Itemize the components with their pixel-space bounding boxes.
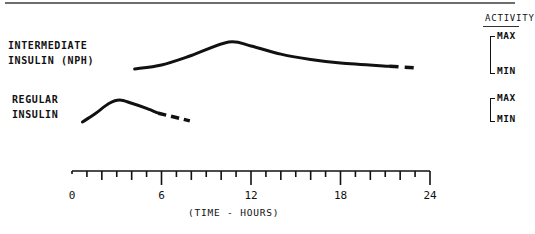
x-tick-label: 24 bbox=[423, 189, 436, 202]
x-tick-label: 0 bbox=[69, 189, 76, 202]
regular-curve-dashed bbox=[159, 113, 190, 121]
x-tick-label: 12 bbox=[244, 189, 257, 202]
time-axis bbox=[72, 171, 430, 185]
nph-curve-dashed bbox=[390, 66, 420, 68]
regular-curve-solid bbox=[82, 100, 158, 122]
x-tick-label: 18 bbox=[334, 189, 347, 202]
x-axis-title: (TIME - HOURS) bbox=[188, 207, 279, 218]
nph-curve-solid bbox=[135, 42, 390, 69]
x-tick-label: 6 bbox=[158, 189, 165, 202]
